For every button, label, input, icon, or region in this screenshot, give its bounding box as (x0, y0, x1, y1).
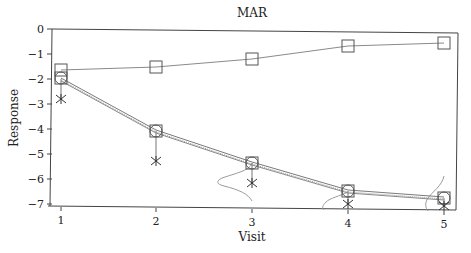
x-tick-label: 2 (153, 215, 160, 228)
x-tick-label: 1 (58, 214, 65, 227)
x-tick-label: 4 (345, 217, 352, 230)
y-tick-label: 0 (37, 23, 44, 36)
y-axis: 0 −1 −2 −3 −4 −5 −6 −7 (28, 23, 52, 211)
series-upper-squares (55, 37, 450, 76)
x-tick-label: 5 (441, 218, 448, 231)
chart-title: MAR (237, 6, 268, 20)
y-tick-label: −2 (28, 73, 44, 86)
y-tick-label: −7 (28, 198, 44, 211)
y-tick-label: −5 (28, 148, 44, 161)
y-tick-label: −6 (28, 173, 44, 186)
x-axis-label: Visit (237, 230, 265, 244)
y-tick-label: −4 (28, 123, 44, 136)
chart: MAR 0 −1 −2 −3 −4 −5 −6 −7 Response 1 2 … (0, 0, 471, 253)
plot-frame (48, 29, 458, 210)
y-axis-label: Response (7, 89, 21, 147)
y-tick-label: −1 (28, 48, 44, 61)
x-axis: 1 2 3 4 5 (58, 207, 448, 231)
y-tick-label: −3 (28, 98, 44, 111)
x-tick-label: 3 (249, 216, 256, 229)
